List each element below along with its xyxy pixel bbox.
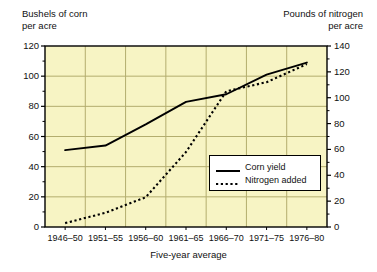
x-axis-label: Five-year average: [0, 249, 377, 260]
y-axis-left-tick-60: 60: [11, 132, 39, 142]
y-axis-right-tick-60: 60: [334, 144, 362, 154]
chart-legend: Corn yield Nitrogen added: [209, 155, 321, 191]
y-axis-right-tick-0: 0: [334, 222, 362, 232]
y-axis-right-tick-40: 40: [334, 170, 362, 180]
x-axis-tick-6: 1976–80: [280, 233, 334, 243]
legend-dotted-line-icon: [215, 175, 241, 185]
y-axis-left-tick-120: 120: [11, 41, 39, 51]
plot-area: [0, 0, 377, 272]
y-axis-right-tick-120: 120: [334, 67, 362, 77]
y-axis-left-tick-80: 80: [11, 101, 39, 111]
legend-solid-line-icon: [215, 162, 241, 172]
legend-item-corn-yield: Corn yield: [215, 160, 315, 173]
legend-item-nitrogen-added: Nitrogen added: [215, 173, 315, 186]
y-axis-right-tick-100: 100: [334, 93, 362, 103]
corn-nitrogen-line-chart: Bushels of cornper acre Pounds of nitrog…: [0, 0, 377, 272]
y-axis-right-tick-20: 20: [334, 196, 362, 206]
y-axis-right-tick-80: 80: [334, 119, 362, 129]
y-axis-right-tick-140: 140: [334, 41, 362, 51]
y-axis-left-tick-100: 100: [11, 71, 39, 81]
y-axis-left-tick-0: 0: [11, 222, 39, 232]
y-axis-left-tick-40: 40: [11, 162, 39, 172]
y-axis-left-tick-20: 20: [11, 192, 39, 202]
legend-label-nitrogen-added: Nitrogen added: [241, 175, 307, 185]
legend-label-corn-yield: Corn yield: [241, 162, 286, 172]
